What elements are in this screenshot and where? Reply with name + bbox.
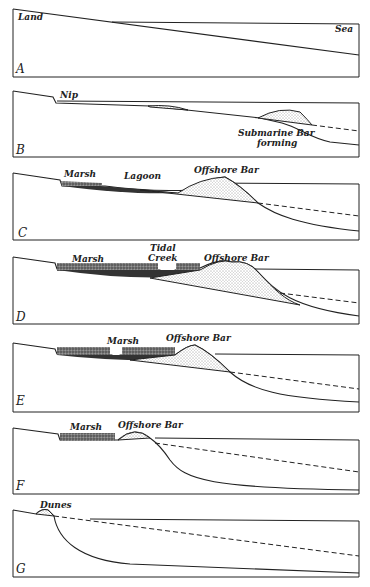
panel-letter-e: E bbox=[15, 394, 25, 408]
label-land: Land bbox=[17, 12, 44, 22]
label-nip: Nip bbox=[59, 90, 79, 100]
panel-letter-g: G bbox=[16, 562, 26, 576]
label-marsh-f: Marsh bbox=[69, 422, 102, 432]
label-dunes: Dunes bbox=[39, 500, 72, 510]
panel-b bbox=[13, 91, 359, 157]
panel-d bbox=[13, 257, 359, 324]
label-offshore-bar-e: Offshore Bar bbox=[166, 333, 232, 343]
label-lagoon: Lagoon bbox=[123, 171, 161, 181]
panel-f bbox=[13, 428, 359, 494]
label-forming: forming bbox=[256, 138, 297, 148]
coastal-evolution-diagram: Land Sea A Nip Submarine Bar forming B M… bbox=[0, 0, 370, 587]
panel-a bbox=[13, 9, 359, 77]
panel-e bbox=[13, 343, 359, 412]
label-offshore-bar-f: Offshore Bar bbox=[118, 420, 184, 430]
panel-letter-a: A bbox=[15, 62, 25, 76]
panel-letter-d: D bbox=[15, 310, 26, 324]
panel-letter-f: F bbox=[15, 479, 25, 493]
label-offshore-bar-c: Offshore Bar bbox=[194, 165, 260, 175]
label-creek: Creek bbox=[148, 253, 178, 263]
label-tidal: Tidal bbox=[150, 243, 176, 253]
label-sea: Sea bbox=[335, 24, 353, 34]
label-submarine-bar: Submarine Bar bbox=[238, 128, 316, 138]
label-marsh-e: Marsh bbox=[106, 336, 139, 346]
label-marsh-c: Marsh bbox=[63, 169, 96, 179]
panel-letter-b: B bbox=[15, 143, 25, 157]
panel-letter-c: C bbox=[18, 226, 27, 240]
label-offshore-bar-d: Offshore Bar bbox=[204, 253, 270, 263]
label-marsh-d: Marsh bbox=[71, 254, 104, 264]
panel-g bbox=[13, 510, 359, 578]
panel-c bbox=[13, 173, 359, 240]
